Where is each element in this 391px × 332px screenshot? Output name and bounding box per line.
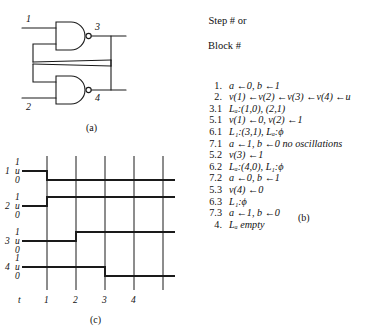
caption-c: (c) (90, 314, 101, 325)
steplist-items: 1.a ←0, b ←12.v(1) ←v(2) ←v(3) ←v(4) ←u3… (196, 80, 391, 231)
waveform-signal-4 (22, 267, 175, 276)
label-node-1: 1 (26, 13, 31, 24)
time-tick-2: 2 (73, 295, 78, 305)
step-item: 1.a ←0, b ←1 (196, 80, 391, 92)
caption-b: (b) (298, 212, 310, 223)
steplist-header: Step # or Block # (196, 2, 391, 78)
waveform-signal-2 (22, 197, 175, 206)
step-text: Lₐ:(1,0), (2,1) (229, 103, 391, 115)
nand-gate-bottom-feedback-input (33, 64, 56, 82)
steplist-header-line1: Step # or (209, 15, 247, 26)
label-node-4: 4 (95, 92, 100, 103)
step-text: v(4) ←0 (229, 184, 391, 196)
steplist-header-line2: Block # (198, 40, 391, 53)
step-text: Lₐ:(4,0), L₁:ϕ (229, 161, 391, 173)
step-number: 1. (196, 80, 229, 92)
step-number: 2. (196, 91, 229, 103)
step-number: 7.2 (196, 172, 229, 184)
step-text: a ←0, b ←1 (229, 172, 391, 184)
timing-row-label-4: 4 (5, 262, 10, 272)
time-tick-3: 3 (101, 295, 107, 305)
step-text: a ←0, b ←1 (229, 80, 391, 92)
step-item: 6.1L₁:(3,1), Lₐ:ϕ (196, 126, 391, 138)
level-label-2-low: 0 (15, 210, 20, 220)
label-node-2: 2 (26, 101, 31, 112)
step-item: 5.3v(4) ←0 (196, 184, 391, 196)
step-text: L₁:(3,1), Lₐ:ϕ (229, 126, 391, 138)
step-number: 5.3 (196, 184, 229, 196)
waveform-signal-3 (22, 232, 175, 241)
step-number: 5.1 (196, 114, 229, 126)
timing-row-label-2: 2 (5, 201, 10, 211)
nand-gate-bottom-bubble (86, 87, 91, 92)
cross-wire-from-output-4 (33, 60, 111, 62)
step-text: a ←1, b ←0 (229, 207, 391, 219)
step-text: v(1) ←v(2) ←v(3) ←v(4) ←u (229, 91, 391, 103)
timing-row-label-3: 3 (4, 236, 10, 246)
step-number: 7.3 (196, 207, 229, 219)
step-number: 6.3 (196, 196, 229, 208)
nand-latch-svg: 1 2 3 4 (0, 0, 190, 125)
level-label-4-low: 0 (15, 271, 20, 281)
time-axis-label: t (18, 295, 21, 305)
step-item: 7.1a ←1, b ←0 no oscillations (196, 138, 391, 150)
step-number: 6.1 (196, 126, 229, 138)
step-number: 7.1 (196, 138, 229, 150)
figure-b-steplist: Step # or Block # 1.a ←0, b ←12.v(1) ←v(… (196, 2, 391, 230)
step-number: 3.1 (196, 103, 229, 115)
figure-a-schematic: 1 2 3 4 (0, 0, 190, 125)
step-text: v(1) ←0, v(2) ←1 (229, 114, 391, 126)
time-tick-4: 4 (131, 295, 136, 305)
nand-gate-bottom-body (56, 76, 85, 104)
caption-a: (a) (86, 122, 97, 133)
step-item: 5.1v(1) ←0, v(2) ←1 (196, 114, 391, 126)
step-text: Lₐ empty (229, 219, 391, 231)
label-node-3: 3 (94, 21, 100, 32)
nand-gate-top-body (56, 22, 85, 50)
timing-row-label-1: 1 (5, 166, 10, 176)
level-label-1-low: 0 (15, 175, 20, 185)
step-item: 6.3L₁:ϕ (196, 196, 391, 208)
step-item: 7.3a ←1, b ←0 (196, 207, 391, 219)
step-item: 5.2v(3) ←1 (196, 149, 391, 161)
nand-gate-top-bubble (86, 33, 91, 38)
step-text: v(3) ←1 (229, 149, 391, 161)
step-item: 4.Lₐ empty (196, 219, 391, 231)
cross-wire-from-output-3 (33, 64, 111, 66)
step-text: a ←1, b ←0 no oscillations (229, 138, 391, 150)
nand-gate-top-feedback-input (33, 44, 56, 62)
step-item: 7.2a ←0, b ←1 (196, 172, 391, 184)
step-item: 3.1Lₐ:(1,0), (2,1) (196, 103, 391, 115)
waveform-signal-1 (22, 171, 175, 180)
step-text: L₁:ϕ (229, 196, 391, 208)
timing-diagram-svg: 1 1 u 0 2 1 u 0 3 1 u 0 4 1 u 0 t 1 2 3 … (0, 150, 195, 320)
time-tick-1: 1 (44, 295, 49, 305)
step-item: 6.2Lₐ:(4,0), L₁:ϕ (196, 161, 391, 173)
step-item: 2.v(1) ←v(2) ←v(3) ←v(4) ←u (196, 91, 391, 103)
step-number: 4. (196, 219, 229, 231)
step-number: 6.2 (196, 161, 229, 173)
figure-c-timing: 1 1 u 0 2 1 u 0 3 1 u 0 4 1 u 0 t 1 2 3 … (0, 150, 195, 320)
step-number: 5.2 (196, 149, 229, 161)
